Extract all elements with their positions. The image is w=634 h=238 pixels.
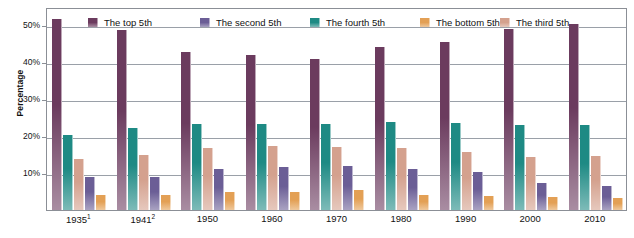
bar [343, 166, 353, 210]
bar-group [47, 9, 112, 210]
bar [321, 124, 331, 210]
bar [408, 169, 418, 210]
legend-swatch-icon [420, 18, 430, 27]
bar [537, 183, 547, 210]
x-axis-tick-label: 19351 [46, 213, 111, 225]
y-axis-tick-label: 20% [8, 131, 40, 141]
legend-item[interactable]: The second 5th [200, 17, 310, 28]
bar [150, 177, 160, 210]
bar [74, 159, 84, 210]
bar [613, 198, 623, 210]
bar [397, 148, 407, 210]
y-axis-tick-mark [42, 26, 46, 27]
bar [419, 195, 429, 211]
bar-group [176, 9, 241, 210]
bar [96, 195, 106, 210]
bar [52, 19, 62, 210]
y-axis-tick-mark [42, 63, 46, 64]
bar [526, 157, 536, 210]
chart-legend: The top 5thThe second 5thThe fourth 5thT… [88, 14, 569, 30]
x-axis-tick-label: 19412 [111, 213, 176, 225]
y-axis-tick-mark [42, 174, 46, 175]
bar [548, 197, 558, 210]
bar [602, 186, 612, 210]
x-axis-tick-label: 1960 [240, 213, 305, 224]
legend-swatch-icon [500, 18, 510, 27]
bar-group [112, 9, 177, 210]
legend-label: The second 5th [216, 17, 282, 28]
bar [375, 47, 385, 210]
bar [279, 167, 289, 210]
bar [290, 192, 300, 210]
bar [386, 122, 396, 210]
bar [310, 59, 320, 210]
x-axis-tick-label: 2000 [498, 213, 563, 224]
y-axis-tick-label: 10% [8, 168, 40, 178]
y-axis-tick-label: 50% [8, 20, 40, 30]
legend-item[interactable]: The bottom 5th [420, 17, 500, 28]
bar [257, 124, 267, 210]
bar [515, 125, 525, 210]
x-axis-tick-label: 1980 [369, 213, 434, 224]
bar [332, 147, 342, 210]
legend-swatch-icon [200, 18, 210, 27]
bar [451, 123, 461, 210]
bar-group [241, 9, 306, 210]
bar [225, 192, 235, 210]
bar-group [305, 9, 370, 210]
x-axis-tick-label: 1990 [433, 213, 498, 224]
y-axis-tick-mark [42, 137, 46, 138]
bar [462, 152, 472, 210]
legend-label: The fourth 5th [326, 17, 385, 28]
bar-group [434, 9, 499, 210]
bar [117, 30, 127, 210]
bar [161, 195, 171, 210]
bar-group [370, 9, 435, 210]
bar [580, 125, 590, 210]
legend-label: The top 5th [104, 17, 152, 28]
bar-group [563, 9, 628, 210]
x-axis-tick-label: 1970 [304, 213, 369, 224]
legend-item[interactable]: The fourth 5th [310, 17, 420, 28]
legend-item[interactable]: The third 5th [500, 17, 569, 28]
y-axis-tick-label: 40% [8, 57, 40, 67]
bar [591, 156, 601, 210]
bar [63, 135, 73, 210]
bar [268, 146, 278, 210]
x-axis-labels: 19351194121950196019701980199020002010 [46, 213, 627, 235]
legend-swatch-icon [310, 18, 320, 27]
legend-swatch-icon [88, 18, 98, 27]
bar-chart: Percentage 10%20%30%40%50% 1935119412195… [0, 0, 634, 238]
y-axis-tick-label: 30% [8, 94, 40, 104]
legend-item[interactable]: The top 5th [88, 17, 200, 28]
bar [192, 124, 202, 210]
x-axis-tick-label: 2010 [562, 213, 627, 224]
bar-group [499, 9, 564, 210]
legend-label: The bottom 5th [436, 17, 500, 28]
plot-area [47, 9, 626, 210]
bar [214, 169, 224, 210]
bar [85, 177, 95, 210]
plot-frame [46, 8, 627, 211]
y-axis-tick-mark [42, 100, 46, 101]
bar [484, 196, 494, 210]
bar [203, 148, 213, 210]
bar [181, 52, 191, 210]
bar [246, 55, 256, 210]
bar [139, 155, 149, 210]
bar [473, 172, 483, 210]
bar [569, 24, 579, 210]
x-axis-tick-label: 1950 [175, 213, 240, 224]
bar [440, 42, 450, 210]
legend-label: The third 5th [516, 17, 569, 28]
bar [504, 29, 514, 210]
bar [128, 128, 138, 210]
bar [354, 190, 364, 210]
